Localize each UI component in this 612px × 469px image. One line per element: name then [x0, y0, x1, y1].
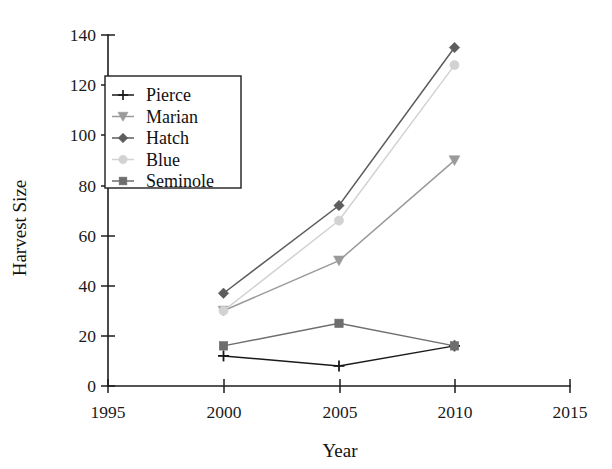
- y-tick-label: 60: [79, 226, 97, 246]
- triangle-down-marker: [334, 256, 345, 266]
- square-marker: [219, 342, 227, 350]
- x-tick-label: 1995: [91, 402, 126, 422]
- y-tick-label: 40: [79, 276, 97, 296]
- series-line: [224, 160, 455, 310]
- y-tick-label: 20: [79, 326, 97, 346]
- legend-label: Pierce: [146, 85, 191, 105]
- x-axis-tick-labels: 1995 2000 2005 2010 2015: [91, 402, 588, 422]
- y-axis-tick-labels: 140 120 100 80 60 40 20 0: [70, 25, 97, 396]
- circle-marker: [334, 216, 343, 225]
- legend-label: Blue: [146, 150, 180, 170]
- y-tick-label: 140: [70, 25, 97, 45]
- x-tick-label: 2010: [438, 402, 473, 422]
- y-tick-label: 80: [79, 176, 97, 196]
- diamond-marker: [449, 42, 459, 52]
- square-marker: [119, 177, 127, 185]
- legend-label: Seminole: [146, 171, 214, 191]
- legend-label: Marian: [146, 107, 198, 127]
- x-tick-label: 2005: [323, 402, 358, 422]
- y-tick-label: 0: [87, 376, 96, 396]
- y-tick-label: 100: [70, 125, 97, 145]
- legend: PierceMarianHatchBlueSeminole: [105, 76, 241, 191]
- circle-marker: [219, 306, 228, 315]
- circle-marker: [450, 60, 459, 69]
- legend-label: Hatch: [146, 128, 189, 148]
- square-marker: [335, 319, 343, 327]
- y-tick-label: 120: [70, 75, 97, 95]
- series-layer: [218, 42, 460, 371]
- x-tick-label: 2000: [207, 402, 242, 422]
- series-seminole: [219, 319, 458, 350]
- square-marker: [450, 342, 458, 350]
- x-tick-label: 2015: [553, 402, 588, 422]
- chart-figure: 140 120 100 80 60 40 20 0 1995 2000 2005…: [0, 0, 612, 469]
- y-axis-title: Harvest Size: [9, 180, 30, 277]
- series-line: [224, 65, 455, 311]
- x-axis-title: Year: [322, 440, 358, 461]
- series-pierce: [218, 340, 460, 371]
- series-marian: [218, 156, 460, 316]
- plus-marker: [218, 350, 229, 361]
- circle-marker: [119, 155, 127, 163]
- line-chart-canvas: 140 120 100 80 60 40 20 0 1995 2000 2005…: [0, 0, 612, 469]
- plus-marker: [334, 360, 345, 371]
